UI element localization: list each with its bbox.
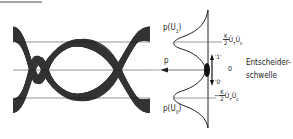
lower-level-label: −K2ÛTÛ0 (214, 89, 239, 102)
arrow-up-icon (210, 54, 214, 60)
zero-mark-label: '0' (215, 79, 221, 85)
threshold-overlap (204, 63, 210, 77)
p-arrow-icon (160, 68, 168, 73)
arrow-down-icon (210, 80, 214, 86)
eye-diagram-figure (0, 0, 293, 139)
threshold-label-line2: schwelle (246, 72, 277, 80)
p-u0-label: p(U0) (163, 105, 181, 115)
p-axis-label: p (164, 57, 169, 65)
p-u1-label: p(U1) (163, 24, 181, 34)
one-mark-label: '1' (215, 54, 221, 60)
zero-level-label: 0 (228, 66, 232, 73)
threshold-label-line1: Entscheider- (246, 59, 291, 67)
upper-level-label: K2ÛTÛ0 (223, 33, 242, 46)
